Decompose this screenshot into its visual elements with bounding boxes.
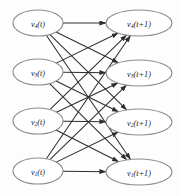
node-v4_t1[interactable]: v4(t+1) (106, 10, 172, 36)
node-label-v1_t1: v1(t+1) (127, 168, 151, 178)
node-label-v1_t: v1(t) (31, 167, 45, 177)
node-v2_t[interactable]: v2(t) (13, 108, 63, 134)
edges-layer (46, 23, 130, 172)
edge-v1_t-to-v2_t1 (56, 132, 118, 162)
node-v1_t1[interactable]: v1(t+1) (106, 159, 172, 185)
node-v3_t1[interactable]: v3(t+1) (106, 60, 172, 86)
node-v1_t[interactable]: v1(t) (13, 158, 63, 184)
edge-v3_t-to-v2_t1 (56, 81, 118, 112)
bipartite-graph-figure: v4(t)v3(t)v2(t)v1(t)v4(t+1)v3(t+1)v2(t+1… (0, 0, 178, 196)
nodes-layer: v4(t)v3(t)v2(t)v1(t)v4(t+1)v3(t+1)v2(t+1… (13, 10, 172, 185)
node-label-v2_t1: v2(t+1) (127, 118, 151, 128)
graph-canvas: v4(t)v3(t)v2(t)v1(t)v4(t+1)v3(t+1)v2(t+1… (0, 0, 178, 196)
node-label-v2_t: v2(t) (31, 117, 45, 127)
edge-v2_t-to-v1_t1 (56, 130, 119, 162)
node-label-v4_t: v4(t) (31, 19, 45, 29)
node-label-v3_t1: v3(t+1) (127, 69, 151, 79)
node-label-v4_t1: v4(t+1) (127, 19, 151, 29)
node-v2_t1[interactable]: v2(t+1) (106, 109, 172, 135)
node-label-v3_t: v3(t) (31, 68, 45, 78)
node-v4_t[interactable]: v4(t) (13, 10, 63, 36)
node-v3_t[interactable]: v3(t) (13, 59, 63, 85)
edge-v2_t-to-v3_t1 (56, 83, 117, 112)
